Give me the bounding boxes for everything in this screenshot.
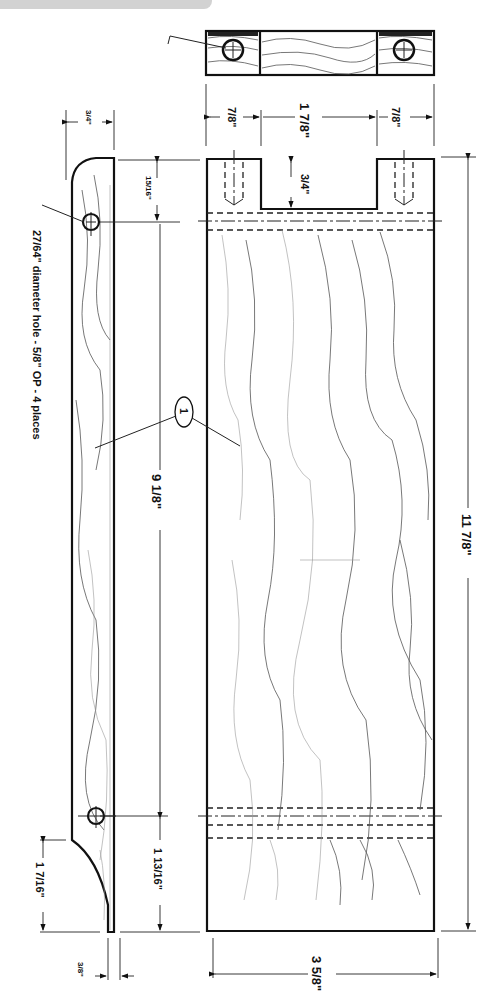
- dim-bottom-hole-offset: 1 13/16": [152, 848, 164, 890]
- dim-top-hole-offset: 15/16": [144, 176, 153, 200]
- dim-overall-length: 11 7/8": [459, 514, 474, 556]
- part-number: 1: [178, 408, 190, 414]
- dim-hole-spacing: 9 1/8": [149, 474, 164, 509]
- dim-end-middle: 1 7/8": [297, 103, 312, 138]
- dim-bottom-thickness: 3/8": [76, 962, 85, 977]
- technical-drawing: 7/8" 1 7/8" 7/8": [0, 0, 503, 1002]
- dim-width: 3 5/8": [309, 956, 324, 991]
- part-callout: 1: [95, 397, 240, 448]
- dim-notch-depth: 3/4": [299, 174, 311, 195]
- dim-end-left: 7/8": [226, 107, 238, 128]
- dim-end-right: 7/8": [390, 107, 402, 128]
- end-view-dimensions: 7/8" 1 7/8" 7/8": [206, 84, 434, 146]
- front-view: [198, 150, 442, 931]
- front-view-dimensions: 3/4" 11 7/8" 3 5/8": [213, 157, 476, 991]
- dim-curve-length: 1 7/16": [34, 862, 46, 898]
- hole-note: 27/64" diameter hole - 5/8" OP - 4 place…: [31, 230, 43, 440]
- dim-top-thickness: 3/4": [84, 110, 93, 125]
- end-view: [168, 31, 434, 75]
- side-view-dimensions: 3/4" 15/16" 9 1/8" 1 13/16" 1 7/16" 3/8": [34, 110, 200, 980]
